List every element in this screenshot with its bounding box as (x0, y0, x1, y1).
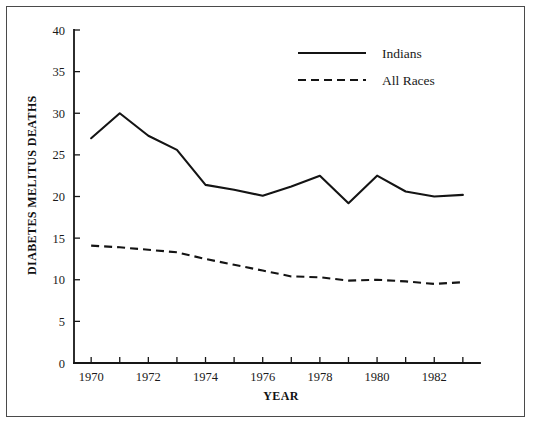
y-tick-label: 15 (53, 232, 66, 246)
series-line-all-races (91, 246, 463, 284)
chart-figure: 0510152025303540 19701972197419761978198… (0, 0, 533, 425)
x-axis-title: YEAR (263, 389, 299, 403)
x-tick-label: 1972 (136, 370, 161, 384)
x-tick-label: 1974 (193, 370, 219, 384)
y-tick-label: 5 (59, 315, 65, 329)
chart-legend: IndiansAll Races (298, 46, 435, 88)
legend-label-all-races: All Races (382, 73, 435, 88)
x-tick-label: 1980 (365, 370, 390, 384)
y-axis-ticks: 0510152025303540 (53, 24, 81, 371)
line-chart: 0510152025303540 19701972197419761978198… (0, 0, 533, 425)
y-tick-label: 10 (53, 273, 66, 287)
y-tick-label: 35 (53, 65, 66, 79)
y-tick-label: 40 (53, 24, 66, 38)
series-line-indians (91, 113, 463, 203)
y-tick-label: 25 (53, 148, 66, 162)
x-axis-ticks: 1970197219741976197819801982 (79, 357, 463, 384)
y-axis-title: DIABETES MELITUS DEATHS (25, 95, 39, 275)
x-tick-label: 1978 (307, 370, 332, 384)
legend-label-indians: Indians (382, 46, 422, 61)
x-tick-label: 1970 (79, 370, 104, 384)
data-series-group (91, 113, 463, 284)
y-tick-label: 30 (53, 107, 66, 121)
y-tick-label: 0 (59, 357, 65, 371)
x-tick-label: 1982 (422, 370, 447, 384)
x-tick-label: 1976 (250, 370, 275, 384)
y-tick-label: 20 (53, 190, 66, 204)
